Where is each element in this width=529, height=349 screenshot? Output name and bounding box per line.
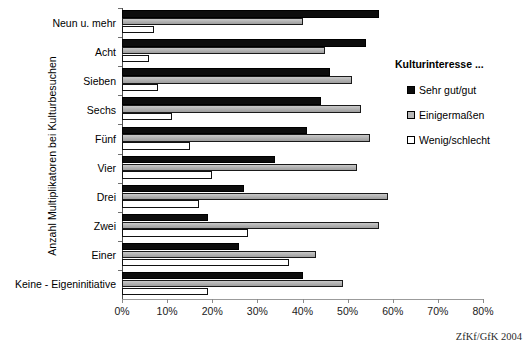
category-label: Zwei bbox=[94, 220, 116, 232]
x-axis-tick bbox=[483, 299, 484, 303]
x-axis-tick bbox=[438, 299, 439, 303]
bar-0 bbox=[122, 97, 321, 104]
category-label: Acht bbox=[95, 46, 116, 58]
x-axis-label: 60% bbox=[382, 305, 403, 317]
bar-1 bbox=[122, 18, 303, 25]
y-axis-title: Anzahl Multiplikatoren bei Kulturbesuche… bbox=[46, 36, 58, 276]
bar-1 bbox=[122, 193, 388, 200]
y-axis-tick bbox=[118, 183, 122, 184]
bar-2 bbox=[122, 171, 212, 178]
chart-row: Zwei bbox=[122, 212, 483, 241]
legend-swatch-icon bbox=[407, 111, 415, 119]
y-axis-tick bbox=[118, 37, 122, 38]
bar-1 bbox=[122, 164, 357, 171]
bar-1 bbox=[122, 280, 343, 287]
legend-title: Kulturinteresse ... bbox=[383, 58, 529, 70]
bar-2 bbox=[122, 288, 208, 295]
bar-2 bbox=[122, 259, 289, 266]
chart-row: Neun u. mehr bbox=[122, 8, 483, 37]
bar-1 bbox=[122, 134, 370, 141]
bar-2 bbox=[122, 229, 248, 236]
x-axis-tick bbox=[257, 299, 258, 303]
bar-2 bbox=[122, 113, 172, 120]
bar-1 bbox=[122, 251, 316, 258]
x-axis-tick bbox=[212, 299, 213, 303]
y-axis-tick bbox=[118, 66, 122, 67]
y-axis-tick bbox=[118, 95, 122, 96]
legend-label: Einigermaßen bbox=[419, 109, 484, 121]
x-axis-tick bbox=[303, 299, 304, 303]
bar-chart: Anzahl Multiplikatoren bei Kulturbesuche… bbox=[0, 0, 529, 349]
y-axis-tick bbox=[118, 124, 122, 125]
legend-swatch-icon bbox=[407, 86, 415, 94]
bar-0 bbox=[122, 39, 366, 46]
bar-2 bbox=[122, 84, 158, 91]
x-axis-label: 20% bbox=[202, 305, 223, 317]
x-axis-label: 40% bbox=[292, 305, 313, 317]
legend-item: Einigermaßen bbox=[383, 109, 529, 121]
bar-0 bbox=[122, 272, 303, 279]
bar-2 bbox=[122, 200, 199, 207]
category-label: Einer bbox=[91, 249, 116, 261]
legend-label: Wenig/schlecht bbox=[419, 134, 490, 146]
x-axis-tick bbox=[348, 299, 349, 303]
bar-2 bbox=[122, 55, 149, 62]
chart-row: Keine - Eigeninitiative bbox=[122, 270, 483, 299]
x-axis-label: 70% bbox=[427, 305, 448, 317]
y-axis-tick bbox=[118, 212, 122, 213]
category-label: Keine - Eigeninitiative bbox=[15, 278, 116, 290]
category-label: Sieben bbox=[83, 75, 116, 87]
y-axis-tick bbox=[118, 154, 122, 155]
legend-label: Sehr gut/gut bbox=[419, 84, 476, 96]
bar-1 bbox=[122, 47, 325, 54]
chart-row: Einer bbox=[122, 241, 483, 270]
chart-legend: Kulturinteresse ... Sehr gut/gutEinigerm… bbox=[383, 58, 529, 159]
x-axis-label: 10% bbox=[157, 305, 178, 317]
category-label: Sechs bbox=[87, 104, 116, 116]
x-axis-label: 80% bbox=[472, 305, 493, 317]
bar-0 bbox=[122, 214, 208, 221]
x-axis-label: 0% bbox=[114, 305, 129, 317]
y-axis-tick bbox=[118, 241, 122, 242]
bar-1 bbox=[122, 222, 379, 229]
category-label: Drei bbox=[97, 191, 116, 203]
x-axis-tick bbox=[167, 299, 168, 303]
bar-2 bbox=[122, 26, 154, 33]
bar-0 bbox=[122, 68, 330, 75]
x-axis-tick bbox=[393, 299, 394, 303]
x-axis-label: 30% bbox=[247, 305, 268, 317]
bar-0 bbox=[122, 243, 239, 250]
category-label: Fünf bbox=[95, 133, 116, 145]
bar-0 bbox=[122, 127, 307, 134]
category-label: Vier bbox=[98, 162, 116, 174]
legend-item: Wenig/schlecht bbox=[383, 134, 529, 146]
bar-1 bbox=[122, 76, 352, 83]
bar-0 bbox=[122, 185, 244, 192]
bar-1 bbox=[122, 105, 361, 112]
legend-swatch-icon bbox=[407, 136, 415, 144]
x-axis-tick bbox=[122, 299, 123, 303]
bar-0 bbox=[122, 10, 379, 17]
category-label: Neun u. mehr bbox=[52, 17, 116, 29]
x-axis-label: 50% bbox=[337, 305, 358, 317]
y-axis-tick bbox=[118, 270, 122, 271]
chart-row: Drei bbox=[122, 183, 483, 212]
source-note: ZfKf/GfK 2004 bbox=[456, 331, 522, 342]
y-axis-tick bbox=[118, 8, 122, 9]
legend-item: Sehr gut/gut bbox=[383, 84, 529, 96]
bar-0 bbox=[122, 156, 275, 163]
bar-2 bbox=[122, 142, 190, 149]
